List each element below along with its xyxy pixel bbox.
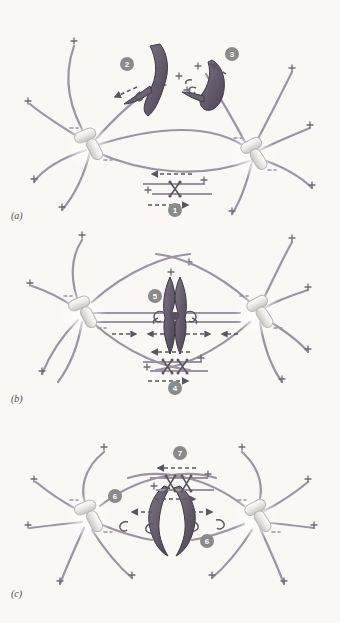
- step-badge-c-7: 7: [173, 446, 187, 460]
- right-centrosome-a: [228, 131, 276, 179]
- step-badge-c-6-left-label: 6: [113, 492, 118, 501]
- step-badge-b-5: 5: [148, 289, 162, 303]
- step-badge-b-4: 4: [168, 381, 182, 395]
- step-badge-c-6-left: 6: [108, 489, 122, 503]
- right-centrosome-b: [234, 289, 282, 337]
- step-badge-b-4-label: 4: [173, 384, 178, 393]
- panel-label-c: (c): [11, 588, 22, 599]
- panel-label-b: (b): [11, 393, 23, 404]
- step-badge-a-3-label: 3: [230, 50, 235, 59]
- mitotic-spindle-figure: 1 2 3: [0, 0, 340, 623]
- step-badge-c-6-right: 6: [200, 534, 214, 548]
- left-centrosome-b: [58, 289, 106, 337]
- step-badge-c-6-right-label: 6: [205, 537, 210, 546]
- step-badge-b-5-label: 5: [153, 292, 158, 301]
- step-badge-a-2: 2: [120, 57, 134, 71]
- step-badge-a-2-label: 2: [125, 60, 130, 69]
- step-badge-a-3: 3: [225, 47, 239, 61]
- left-centrosome-c: [64, 493, 112, 541]
- panel-label-a: (a): [11, 210, 23, 221]
- left-centrosome-a: [64, 121, 112, 169]
- step-badge-a-1-label: 1: [173, 206, 178, 215]
- right-centrosome-c: [232, 493, 280, 541]
- step-badge-c-7-label: 7: [178, 449, 183, 458]
- step-badge-a-1: 1: [168, 203, 182, 217]
